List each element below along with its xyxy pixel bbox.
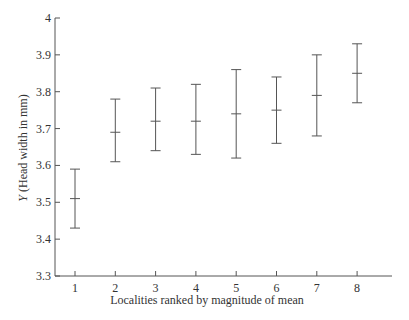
y-tick-label: 3.7 <box>36 122 51 136</box>
y-axis-title-text: (Head width in mm) <box>16 94 30 195</box>
error-bar <box>70 169 80 228</box>
y-tick-label: 3.8 <box>36 85 51 99</box>
y-tick-label: 3.9 <box>36 48 51 62</box>
error-bar <box>272 77 282 143</box>
error-bar <box>312 55 322 136</box>
x-tick-label: 7 <box>314 281 320 295</box>
y-axis: 3.33.43.53.63.73.83.94 <box>36 11 60 283</box>
y-tick-label: 4 <box>45 11 51 25</box>
y-axis-title: Y (Head width in mm) <box>16 94 30 201</box>
error-bar <box>231 70 241 158</box>
x-tick-label: 1 <box>72 281 78 295</box>
error-bar-chart: 3.33.43.53.63.73.83.94 12345678 Localiti… <box>0 0 409 320</box>
error-bars <box>70 44 362 228</box>
error-bar <box>110 99 120 162</box>
x-axis: 12345678 <box>55 271 392 295</box>
y-tick-label: 3.5 <box>36 195 51 209</box>
y-tick-label: 3.4 <box>36 232 51 246</box>
error-bar <box>352 44 362 103</box>
x-tick-label: 8 <box>354 281 360 295</box>
x-axis-title: Localities ranked by magnitude of mean <box>110 293 304 307</box>
error-bar <box>191 84 201 154</box>
y-tick-label: 3.6 <box>36 158 51 172</box>
y-tick-label: 3.3 <box>36 269 51 283</box>
error-bar <box>151 88 161 151</box>
